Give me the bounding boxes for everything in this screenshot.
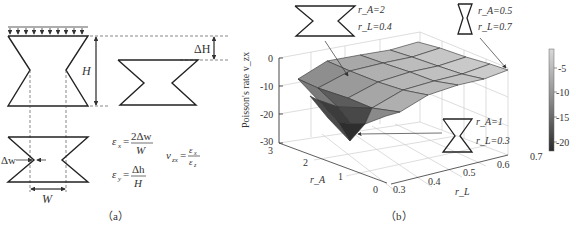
svg-text:0: 0: [268, 53, 273, 64]
svg-text:zx: zx: [171, 156, 179, 164]
delta-w-label: Δw: [1, 154, 16, 166]
reentrant-cell-original: [8, 36, 88, 106]
svg-text:r_L=0.3: r_L=0.3: [476, 135, 510, 146]
svg-text:-5: -5: [558, 63, 566, 74]
svg-text:r_A=2: r_A=2: [358, 4, 385, 15]
svg-text:W: W: [136, 144, 146, 156]
svg-text:1: 1: [338, 171, 343, 182]
ra-axis-ticks: 3 2 1 0: [268, 145, 378, 195]
reentrant-cell-compressed: [118, 60, 198, 105]
z-axis-ticks: 0 -10 -20 -30: [260, 53, 273, 147]
svg-text:z: z: [193, 162, 197, 168]
svg-text:v: v: [166, 149, 171, 161]
equation-poisson: v zx = ε x ε z: [166, 145, 200, 168]
svg-text:3: 3: [268, 145, 273, 156]
h-label: H: [81, 64, 92, 78]
svg-text:ε: ε: [112, 135, 117, 147]
svg-text:2Δw: 2Δw: [131, 130, 152, 142]
w-label: W: [42, 192, 53, 206]
svg-text:x: x: [117, 142, 122, 150]
z-axis-label: Poisson's rate v_zx: [240, 52, 251, 128]
svg-text:0.5: 0.5: [463, 167, 476, 178]
reentrant-cell-width: [8, 137, 88, 182]
svg-text:-15: -15: [556, 112, 569, 123]
annotation-ra1-rl03: r_A=1 r_L=0.3: [358, 116, 510, 152]
svg-text:=: =: [123, 168, 129, 180]
svg-text:r_L=0.7: r_L=0.7: [478, 21, 513, 32]
svg-text:2: 2: [303, 157, 308, 168]
svg-text:=: =: [123, 135, 129, 147]
panel-b-surface-plot: 0 -10 -20 -30 Poisson's rate v_zx 3 2 1 …: [240, 4, 569, 222]
svg-text:-10: -10: [556, 87, 569, 98]
caption-a: （a）: [102, 210, 129, 222]
svg-text:-20: -20: [556, 137, 569, 148]
svg-text:r_A=0.5: r_A=0.5: [478, 5, 512, 16]
rl-axis-label: r_L: [455, 186, 470, 197]
svg-text:r_A=1: r_A=1: [476, 116, 503, 127]
svg-text:r_L=0.4: r_L=0.4: [358, 21, 392, 32]
colorbar: -5 -10 -15 -20: [549, 49, 569, 151]
svg-text:-20: -20: [260, 109, 273, 120]
equation-epsilon-x: ε x = 2Δw W: [112, 130, 153, 156]
svg-text:H: H: [133, 177, 143, 189]
ra-axis-label: r_A: [310, 174, 326, 185]
svg-text:x: x: [193, 150, 197, 156]
svg-text:0.3: 0.3: [393, 184, 406, 195]
caption-b: （b）: [385, 210, 413, 222]
svg-text:0.7: 0.7: [530, 151, 543, 162]
svg-text:=: =: [180, 149, 186, 161]
svg-text:0.6: 0.6: [497, 159, 510, 170]
svg-text:ε: ε: [112, 168, 117, 180]
equation-epsilon-y: ε y = Δh H: [112, 163, 146, 189]
svg-text:0: 0: [373, 184, 378, 195]
panel-a: H ΔH Δw W ε x = 2Δw W: [1, 27, 230, 222]
svg-text:-10: -10: [260, 81, 273, 92]
svg-text:ε: ε: [189, 145, 193, 155]
svg-text:ε: ε: [189, 157, 193, 167]
svg-text:Δh: Δh: [132, 163, 145, 175]
load-arrows-icon: [8, 27, 88, 34]
svg-text:0.4: 0.4: [428, 176, 441, 187]
delta-h-label: ΔH: [194, 42, 211, 56]
svg-text:y: y: [117, 175, 122, 183]
